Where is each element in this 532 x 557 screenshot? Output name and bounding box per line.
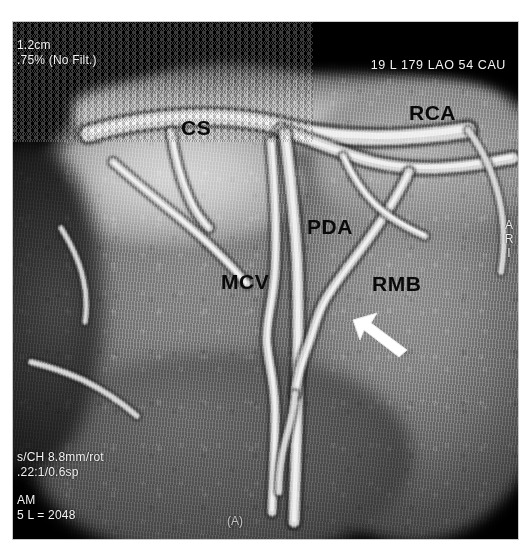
label-pda: PDA: [307, 215, 353, 239]
orientation-marker-right: A R I: [502, 218, 516, 260]
label-cs: CS: [181, 116, 211, 140]
ct-scan-image: CS RCA PDA MCV RMB 1.2cm .75% (No Filt.)…: [13, 22, 518, 539]
orientation-letter-anterior: A: [502, 218, 516, 232]
label-mcv: MCV: [221, 270, 269, 294]
overlay-text-bottom-left-window: AM 5 L = 2048: [17, 493, 76, 523]
white-pointer-arrow: [351, 306, 413, 358]
orientation-letter-inferior: I: [502, 246, 516, 260]
overlay-text-bottom-left-scan-params: s/CH 8.8mm/rot .22:1/0.6sp: [17, 450, 104, 480]
overlay-text-top-right: 19 L 179 LAO 54 CAU: [371, 58, 506, 73]
image-viewport: CS RCA PDA MCV RMB 1.2cm .75% (No Filt.)…: [0, 0, 532, 557]
orientation-letter-right: R: [502, 232, 516, 246]
overlay-text-bottom-center: (A): [227, 514, 243, 528]
label-rmb: RMB: [372, 272, 421, 296]
overlay-text-top-left: 1.2cm .75% (No Filt.): [17, 38, 97, 68]
label-rca: RCA: [409, 101, 456, 125]
